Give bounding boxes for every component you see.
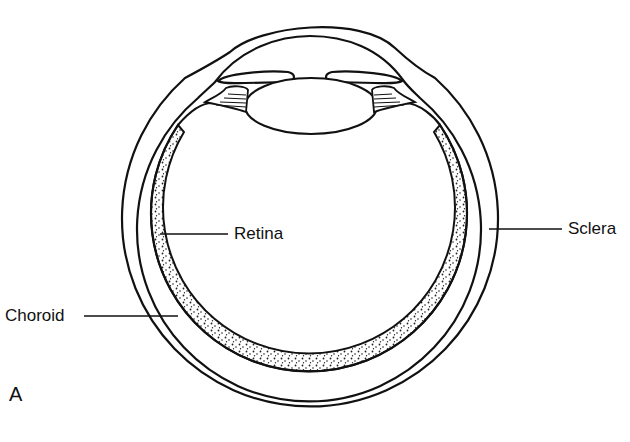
retina-label: Retina [234, 224, 283, 244]
choroid-outer-boundary [151, 103, 467, 371]
eye-cross-section-diagram [0, 0, 630, 442]
choroid-label: Choroid [5, 306, 65, 326]
retina-band [151, 125, 467, 371]
sclera-label: Sclera [568, 219, 616, 239]
panel-label: A [9, 383, 22, 405]
lens [245, 78, 377, 134]
